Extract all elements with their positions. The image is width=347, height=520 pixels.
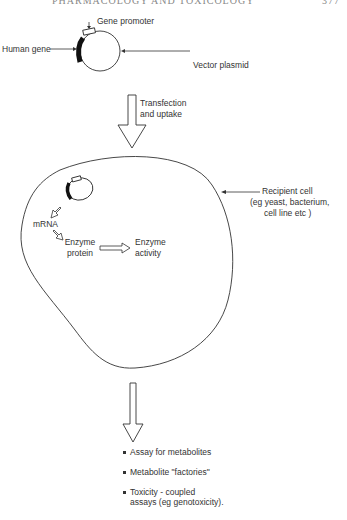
transfection-label-line2: and uptake (140, 109, 182, 119)
recipient-cell-outline (21, 156, 233, 368)
enzyme-activity-label-line1: Enzyme (135, 237, 166, 247)
bullet-icon (123, 451, 126, 454)
human-gene-label: Human gene (2, 44, 51, 54)
outcome-arrow-icon (123, 383, 143, 442)
outcome-item: Assay for metabolites (123, 447, 224, 457)
outcome-item: Toxicity - coupled assays (eg genotoxici… (123, 487, 224, 507)
outcome-item: Metabolite "factories" (123, 467, 224, 477)
vector-plasmid-icon (79, 28, 120, 71)
gene-promoter-label: Gene promoter (97, 16, 154, 26)
translation-arrow-icon (53, 230, 63, 240)
enzyme-activity-label-line2: activity (135, 248, 161, 258)
recipient-cell-label-line3: cell line etc ) (264, 208, 311, 218)
internal-plasmid-icon (65, 175, 96, 203)
outcome-list: Assay for metabolites Metabolite "factor… (123, 447, 224, 517)
recipient-cell-label-line1: Recipient cell (262, 186, 313, 196)
bullet-icon (123, 471, 126, 474)
enzyme-protein-label-line1: Enzyme (64, 237, 96, 247)
figure-page: PHARMACOLOGY AND TOXICOLOGY 377 (0, 0, 347, 520)
recipient-cell-label-line2: (eg yeast, bacterium, (250, 197, 329, 207)
bullet-icon (123, 491, 126, 494)
transcription-arrow-icon (51, 207, 61, 218)
mrna-label: mRNA (33, 219, 58, 229)
diagram-graphics (0, 0, 347, 520)
activity-arrow-icon (100, 243, 130, 253)
enzyme-protein-label-line2: protein (64, 248, 96, 258)
transfection-label-line1: Transfection (140, 98, 186, 108)
vector-plasmid-label: Vector plasmid (193, 60, 249, 70)
